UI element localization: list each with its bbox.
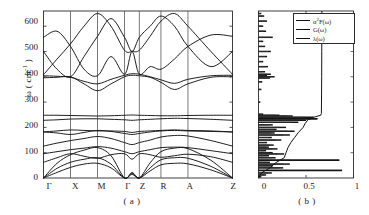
figure-root: ω ( cm-1 ) 600 500 400 300 200 100 0 Γ X… [0, 0, 369, 215]
legend-label-lambda: λ(ω) [313, 35, 325, 42]
panel-b-xtick-1: 1 [348, 181, 366, 191]
panel-a-xtick-z-2: Z [224, 181, 242, 191]
panel-a-xtick-r: R [154, 181, 172, 191]
panel-b-legend: α2F(ω) G(ω) λ(ω) [293, 13, 355, 44]
panel-b-xtick-0: 0 [255, 181, 273, 191]
panel-b-xtick-0.5: 0.5 [300, 181, 318, 191]
legend-item-g: G(ω) [296, 25, 326, 34]
legend-item-alpha2f: α2F(ω) [296, 16, 331, 25]
panel-a-ytick-0: 0 [12, 172, 38, 182]
legend-label-g: G(ω) [313, 26, 326, 33]
panel-a-xtick-x: X [66, 181, 84, 191]
panel-a-xtick-z-1: Z [133, 181, 151, 191]
panel-a-caption: ( a ) [92, 196, 172, 206]
panel-b-caption: ( b ) [267, 196, 347, 206]
panel-a-xtick-m: M [93, 181, 111, 191]
legend-swatch-g [296, 29, 310, 30]
legend-item-lambda: λ(ω) [296, 34, 325, 43]
legend-label-alpha2f: α2F(ω) [313, 16, 331, 25]
panel-a-xtick-gamma-1: Γ [40, 181, 58, 191]
panel-a-phonon-bands: ω ( cm-1 ) 600 500 400 300 200 100 0 Γ X… [0, 0, 250, 215]
panel-a-xtick-a: A [181, 181, 199, 191]
panel-a-ytick-400: 400 [12, 68, 38, 78]
legend-swatch-alpha2f [296, 20, 310, 21]
panel-a-ytick-200: 200 [12, 120, 38, 130]
panel-a-ytick-600: 600 [12, 16, 38, 26]
legend-swatch-lambda [296, 38, 310, 39]
panel-a-ytick-100: 100 [12, 146, 38, 156]
panel-a-ytick-300: 300 [12, 94, 38, 104]
y-axis-label-tail: ) [23, 59, 33, 65]
panel-a-ytick-500: 500 [12, 42, 38, 52]
